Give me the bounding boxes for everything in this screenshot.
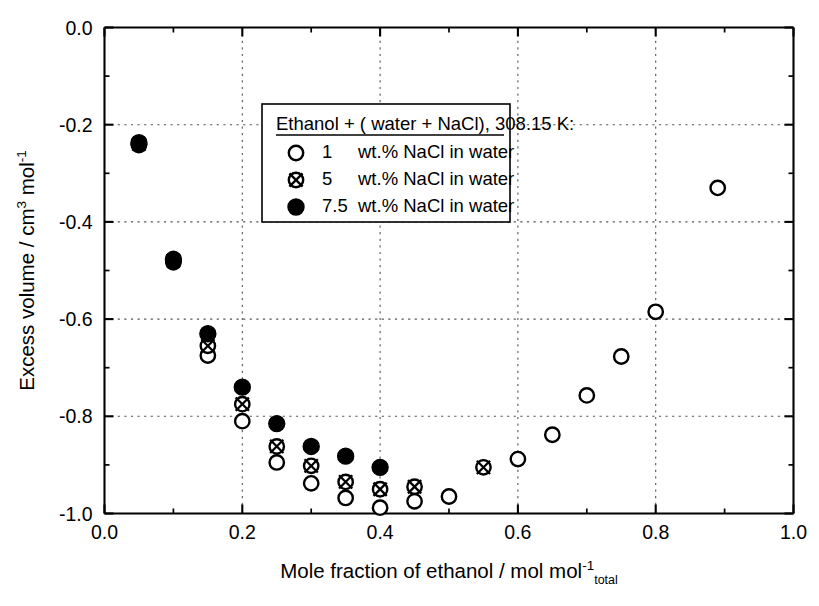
x-tick-label: 0.8 xyxy=(642,521,669,543)
data-point xyxy=(200,326,216,342)
data-point xyxy=(372,459,388,475)
data-point xyxy=(711,181,725,195)
legend-entry-label: wt.% NaCl in water xyxy=(357,168,514,189)
data-point xyxy=(304,459,318,473)
marker-open-circle xyxy=(304,476,318,490)
data-point xyxy=(373,482,387,496)
data-point xyxy=(131,135,147,151)
data-point xyxy=(580,388,594,402)
x-tick-label: 0.0 xyxy=(91,521,118,543)
data-point xyxy=(270,439,284,453)
marker-open-circle xyxy=(711,181,725,195)
marker-open-circle xyxy=(511,452,525,466)
y-tick-label: -0.4 xyxy=(59,211,93,233)
y-tick-label: -0.8 xyxy=(59,405,93,427)
data-point xyxy=(545,428,559,442)
axis-tick-labels: 0.00.20.40.60.81.00.0-0.2-0.4-0.6-0.8-1.… xyxy=(59,17,807,543)
data-point xyxy=(407,480,421,494)
y-tick-label: -1.0 xyxy=(59,503,93,525)
data-point xyxy=(511,452,525,466)
x-tick-label: 0.2 xyxy=(229,521,256,543)
data-point xyxy=(269,416,285,432)
x-tick-label: 0.4 xyxy=(367,521,394,543)
legend-marker-crossed-circle xyxy=(289,173,303,187)
marker-open-circle xyxy=(270,455,284,469)
legend-entry-label: wt.% NaCl in water xyxy=(357,141,514,162)
data-point xyxy=(614,349,628,363)
marker-open-circle xyxy=(580,388,594,402)
marker-filled-circle xyxy=(372,459,388,475)
marker-filled-circle xyxy=(234,379,250,395)
data-point xyxy=(407,494,421,508)
data-point xyxy=(303,438,319,454)
marker-open-circle xyxy=(289,146,303,160)
data-point xyxy=(373,500,387,514)
data-point xyxy=(234,379,250,395)
marker-open-circle xyxy=(373,500,387,514)
marker-filled-circle xyxy=(269,416,285,432)
marker-filled-circle xyxy=(131,135,147,151)
legend-title: Ethanol + ( water + NaCl), 308.15 K: xyxy=(276,113,574,134)
x-tick-label: 0.6 xyxy=(504,521,531,543)
chart-legend: Ethanol + ( water + NaCl), 308.15 K:1wt.… xyxy=(262,104,574,222)
y-tick-label: -0.2 xyxy=(59,114,93,136)
legend-marker-filled-circle xyxy=(288,199,304,215)
marker-open-circle xyxy=(338,491,352,505)
data-point xyxy=(338,475,352,489)
gridlines xyxy=(105,28,794,514)
excess-volume-scatter-figure: 0.00.20.40.60.81.00.0-0.2-0.4-0.6-0.8-1.… xyxy=(0,0,819,606)
data-point xyxy=(165,251,181,267)
x-axis-title: Mole fraction of ethanol / mol mol-1tota… xyxy=(280,558,618,587)
marker-open-circle xyxy=(235,414,249,428)
marker-open-circle xyxy=(545,428,559,442)
legend-marker-open-circle xyxy=(289,146,303,160)
legend-entry-label: wt.% NaCl in water xyxy=(357,195,514,216)
data-point xyxy=(442,489,456,503)
y-tick-label: 0.0 xyxy=(65,17,92,39)
marker-open-circle xyxy=(614,349,628,363)
data-point xyxy=(476,460,490,474)
marker-open-circle xyxy=(442,489,456,503)
data-point xyxy=(338,491,352,505)
marker-filled-circle xyxy=(200,326,216,342)
y-tick-label: -0.6 xyxy=(59,308,93,330)
legend-concentration: 1 xyxy=(322,141,332,162)
data-point xyxy=(235,414,249,428)
marker-filled-circle xyxy=(165,251,181,267)
data-point xyxy=(649,305,663,319)
y-axis-title: Excess volume / cm3 mol-1 xyxy=(14,150,38,391)
x-tick-label: 1.0 xyxy=(780,521,807,543)
legend-concentration: 7.5 xyxy=(322,195,348,216)
data-point xyxy=(235,397,249,411)
data-point xyxy=(270,455,284,469)
chart-canvas: 0.00.20.40.60.81.00.0-0.2-0.4-0.6-0.8-1.… xyxy=(0,0,819,606)
marker-filled-circle xyxy=(288,199,304,215)
axis-frame xyxy=(105,28,794,514)
marker-filled-circle xyxy=(303,438,319,454)
marker-filled-circle xyxy=(338,448,354,464)
marker-open-circle xyxy=(407,494,421,508)
marker-open-circle xyxy=(649,305,663,319)
legend-concentration: 5 xyxy=(322,168,332,189)
data-point xyxy=(338,448,354,464)
axis-ticks xyxy=(105,28,794,514)
data-point xyxy=(304,476,318,490)
